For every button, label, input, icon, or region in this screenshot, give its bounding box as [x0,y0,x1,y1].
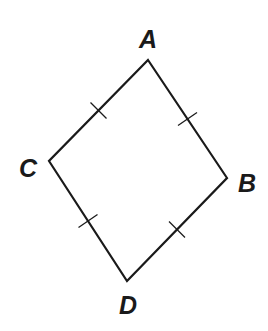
vertex-label-c: C [19,154,38,182]
tick-mark-side-ab [178,113,197,126]
rhombus-diagram: A B C D [0,0,268,331]
tick-mark-side-cd [79,215,98,228]
vertex-label-a: A [138,25,157,53]
vertex-label-d: D [119,291,137,319]
rhombus-outline [49,60,227,281]
vertex-label-b: B [238,169,256,197]
